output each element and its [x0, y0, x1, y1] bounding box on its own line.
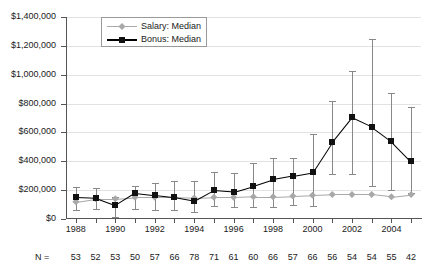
- x-tick-label: 1992: [135, 225, 175, 234]
- legend-marker-salary-icon: [107, 21, 137, 32]
- x-tick-mark: [135, 219, 136, 223]
- y-tick-label: $1,000,000: [0, 70, 56, 79]
- error-bar-cap: [329, 174, 336, 175]
- error-bar-cap: [250, 163, 257, 164]
- error-bar-cap: [329, 101, 336, 102]
- error-bar-cap: [211, 206, 218, 207]
- error-bar-cap: [73, 187, 80, 188]
- error-bar-cap: [290, 158, 297, 159]
- error-bar-cap: [231, 207, 238, 208]
- legend-label-salary: Salary: Median: [137, 21, 201, 32]
- x-tick-mark: [313, 219, 314, 223]
- bonus-data-point: [191, 198, 197, 204]
- plot-area: [66, 17, 421, 219]
- bonus-line-segment: [313, 142, 334, 173]
- legend-item-bonus: Bonus: Median: [107, 34, 201, 45]
- legend-marker-bonus-icon: [107, 34, 137, 45]
- salary-data-point: [250, 193, 257, 200]
- y-tick-label: $1,400,000: [0, 12, 56, 21]
- error-bar: [352, 71, 353, 174]
- bonus-data-point: [250, 183, 256, 189]
- y-axis-line: [66, 17, 67, 219]
- y-tick-label: $600,000: [0, 127, 56, 136]
- y-tick-label: $1,200,000: [0, 41, 56, 50]
- bonus-data-point: [93, 195, 99, 201]
- error-bar-cap: [270, 158, 277, 159]
- x-tick-label: 1998: [253, 225, 293, 234]
- error-bar-cap: [369, 39, 376, 40]
- error-bar-cap: [310, 134, 317, 135]
- gridline: [66, 104, 421, 105]
- x-tick-label: 2000: [293, 225, 333, 234]
- salary-data-point: [388, 193, 395, 200]
- salary-data-point: [230, 194, 237, 201]
- bonus-data-point: [329, 139, 335, 145]
- salary-data-point: [348, 191, 355, 198]
- error-bar-cap: [408, 107, 415, 108]
- error-bar-cap: [310, 206, 317, 207]
- bonus-data-point: [310, 169, 316, 175]
- legend: Salary: Median Bonus: Median: [101, 17, 207, 47]
- x-tick-label: 2002: [332, 225, 372, 234]
- error-bar-cap: [93, 188, 100, 189]
- error-bar: [372, 39, 373, 186]
- x-tick-label: 1994: [174, 225, 214, 234]
- error-bar-cap: [270, 207, 277, 208]
- sample-size-row: N = 535253505766787161606657665654545542: [0, 250, 430, 264]
- y-tick-label: $800,000: [0, 99, 56, 108]
- error-bar-cap: [388, 190, 395, 191]
- x-tick-label: 2004: [371, 225, 411, 234]
- error-bar-cap: [290, 205, 297, 206]
- bonus-data-point: [171, 194, 177, 200]
- bonus-data-point: [408, 158, 414, 164]
- bonus-data-point: [211, 187, 217, 193]
- gridline: [66, 190, 421, 191]
- bonus-data-point: [112, 202, 118, 208]
- x-tick-mark: [115, 219, 116, 223]
- y-tick-label: $400,000: [0, 156, 56, 165]
- x-tick-mark: [214, 219, 215, 223]
- error-bar-cap: [152, 210, 159, 211]
- bonus-line-segment: [332, 117, 352, 142]
- error-bar-cap: [171, 181, 178, 182]
- salary-data-point: [112, 195, 119, 202]
- x-tick-label: 1996: [214, 225, 254, 234]
- bonus-data-point: [73, 194, 79, 200]
- salary-data-point: [408, 191, 415, 198]
- error-bar-cap: [388, 93, 395, 94]
- bonus-data-point: [132, 190, 138, 196]
- salary-data-point: [329, 191, 336, 198]
- bonus-data-point: [270, 176, 276, 182]
- bonus-data-point: [349, 114, 355, 120]
- y-tick-label: $0: [0, 214, 56, 223]
- sample-size-value: 42: [396, 250, 426, 264]
- error-bar-cap: [211, 172, 218, 173]
- error-bar-cap: [250, 207, 257, 208]
- bonus-data-point: [231, 189, 237, 195]
- bonus-data-point: [152, 192, 158, 198]
- error-bar-cap: [93, 209, 100, 210]
- x-tick-mark: [293, 219, 294, 223]
- error-bar-cap: [349, 174, 356, 175]
- legend-item-salary: Salary: Median: [107, 21, 201, 32]
- x-tick-mark: [332, 219, 333, 223]
- x-tick-mark: [194, 219, 195, 223]
- x-tick-label: 1988: [56, 225, 96, 234]
- gridline: [66, 132, 421, 133]
- error-bar: [332, 101, 333, 175]
- salary-data-point: [368, 191, 375, 198]
- x-tick-mark: [155, 219, 156, 223]
- x-tick-mark: [352, 219, 353, 223]
- x-tick-mark: [174, 219, 175, 223]
- x-tick-mark: [253, 219, 254, 223]
- x-tick-mark: [76, 219, 77, 223]
- error-bar-cap: [73, 210, 80, 211]
- sample-size-label: N =: [35, 250, 49, 264]
- error-bar-cap: [171, 210, 178, 211]
- x-tick-mark: [96, 219, 97, 223]
- x-tick-mark: [273, 219, 274, 223]
- x-tick-mark: [234, 219, 235, 223]
- error-bar: [411, 107, 412, 193]
- chart-container: $0$200,000$400,000$600,000$800,000$1,000…: [0, 0, 430, 271]
- bonus-data-point: [369, 124, 375, 130]
